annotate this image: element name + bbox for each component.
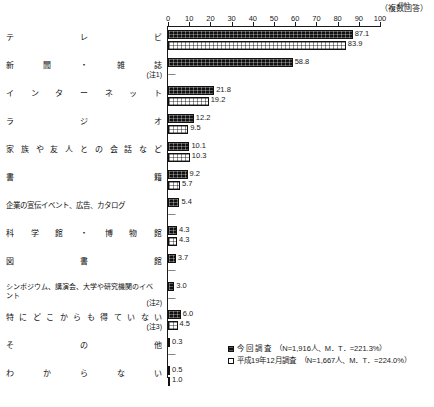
bar-group: 12.29.5 <box>168 114 194 135</box>
bar-current-survey: 4.3 <box>168 226 177 235</box>
bar-previous-survey: 1.0 <box>168 377 170 386</box>
bar-current-survey: 3.0 <box>168 282 174 291</box>
bar-current-survey: 0.3 <box>168 338 170 347</box>
bar-value-label: 0.3 <box>172 337 182 346</box>
bar-value-label: 9.2 <box>190 169 200 178</box>
bar-current-survey: 21.8 <box>168 86 214 95</box>
category-label: その他 <box>6 341 162 351</box>
bar-group: 0.51.0 <box>168 366 170 387</box>
x-axis-tickmark <box>295 22 296 27</box>
category-label: 家族や友人との会話など <box>6 145 162 155</box>
category-label-text: 科学館・博物館 <box>6 229 162 239</box>
legend-label: 今 回 調 査 <box>237 343 271 355</box>
category-label-text: わからない <box>6 369 162 379</box>
bar-current-survey: 58.8 <box>168 58 293 67</box>
bar-value-label: 6.0 <box>183 309 193 318</box>
bar-no-data-dash: — <box>168 293 176 302</box>
chart-row: 企業の宣伝イベント、広告、カタログ5.4— <box>0 196 434 224</box>
bar-value-label: 10.1 <box>191 141 206 150</box>
bar-no-data-dash: — <box>168 349 176 358</box>
x-axis-tickmark <box>359 22 360 27</box>
bar-no-data-dash: — <box>168 265 176 274</box>
bar-value-label: 3.0 <box>176 281 186 290</box>
category-label: テレビ <box>6 33 162 43</box>
category-label-text: 図書館 <box>6 257 162 267</box>
chart-row: 図書館3.7— <box>0 252 434 280</box>
bar-previous-survey: 5.7 <box>168 181 180 190</box>
bar-group: 6.04.5 <box>168 310 181 331</box>
bar-no-data-dash: — <box>168 69 176 78</box>
bar-value-label: 5.7 <box>182 179 192 188</box>
bar-value-label: 19.2 <box>211 95 226 104</box>
x-axis-tick-labels: 0102030405060708090100 <box>0 14 434 25</box>
bar-group: 4.34.3 <box>168 226 177 247</box>
bar-value-label: 3.7 <box>178 253 188 262</box>
x-axis-tickmark <box>189 22 190 27</box>
category-label: ラジオ <box>6 117 162 127</box>
category-label-text: テレビ <box>6 33 162 43</box>
bar-group: 0.3— <box>168 338 170 359</box>
category-label-text: 新聞・雑誌 <box>6 61 162 71</box>
x-axis-tickmark <box>210 22 211 27</box>
bar-group: 10.110.3 <box>168 142 190 163</box>
category-label-text: その他 <box>6 341 162 351</box>
bar-current-survey: 3.7 <box>168 254 176 263</box>
category-label-note: (注3) <box>6 322 162 332</box>
legend-meta: （N=1,916人、M．T．=221.3%） <box>275 343 386 355</box>
chart-row: ラジオ12.29.5 <box>0 112 434 140</box>
category-label: シンポジウム、講演会、大学や研究機関のイベント(注2) <box>6 282 162 300</box>
x-axis-tickmark <box>338 22 339 27</box>
chart-row: 家族や友人との会話など10.110.3 <box>0 140 434 168</box>
chart-row: テレビ87.183.9 <box>0 28 434 56</box>
legend-meta: （N=1,667人、M．T．=224.0%） <box>300 355 411 367</box>
category-label: インターネット <box>6 89 162 99</box>
x-axis-tickmark <box>274 22 275 27</box>
legend-item: 平成19年12月調査（N=1,667人、M．T．=224.0%） <box>228 355 411 367</box>
chart-row: 書籍9.25.7 <box>0 168 434 196</box>
bar-value-label: 21.8 <box>216 85 231 94</box>
bar-value-label: 5.4 <box>181 197 191 206</box>
bar-value-label: 4.3 <box>179 235 189 244</box>
bar-group: 9.25.7 <box>168 170 188 191</box>
category-label: 特にどこからも得ていない(注3) <box>6 313 162 332</box>
category-label: 企業の宣伝イベント、広告、カタログ <box>6 201 162 211</box>
bar-current-survey: 9.2 <box>168 170 188 179</box>
bar-previous-survey: 9.5 <box>168 125 188 134</box>
bar-previous-survey: 19.2 <box>168 97 209 106</box>
bar-current-survey: 5.4 <box>168 198 179 207</box>
bar-current-survey: 10.1 <box>168 142 189 151</box>
chart-row: シンポジウム、講演会、大学や研究機関のイベント(注2)3.0— <box>0 280 434 308</box>
chart-row: 新聞・雑誌(注1)58.8— <box>0 56 434 84</box>
bar-previous-survey: 10.3 <box>168 153 190 162</box>
bar-current-survey: 0.5 <box>168 366 170 375</box>
bar-group: 87.183.9 <box>168 30 353 51</box>
chart-row: インターネット21.819.2 <box>0 84 434 112</box>
bar-value-label: 1.0 <box>172 375 182 384</box>
x-axis-unit-label: (%) <box>398 0 410 9</box>
bar-value-label: 87.1 <box>355 29 370 38</box>
category-label-text: ラジオ <box>6 117 162 127</box>
category-label-text: インターネット <box>6 89 162 99</box>
bar-group: 3.0— <box>168 282 174 303</box>
chart-row: わからない0.51.0 <box>0 364 434 392</box>
bar-value-label: 10.3 <box>192 151 207 160</box>
category-label-text: 家族や友人との会話など <box>6 145 162 155</box>
chart-row: 科学館・博物館4.34.3 <box>0 224 434 252</box>
bar-group: 58.8— <box>168 58 293 79</box>
chart-rows: テレビ87.183.9新聞・雑誌(注1)58.8—インターネット21.819.2… <box>0 28 434 392</box>
bar-value-label: 9.5 <box>190 123 200 132</box>
category-label-text: シンポジウム、講演会、大学や研究機関のイベント <box>6 282 158 300</box>
category-label-note: (注2) <box>146 298 162 308</box>
category-label: 図書館 <box>6 257 162 267</box>
category-label: わからない <box>6 369 162 379</box>
category-label-text: 特にどこからも得ていない <box>6 313 162 323</box>
x-axis-tickmark <box>253 22 254 27</box>
category-label-text: 企業の宣伝イベント、広告、カタログ <box>6 201 162 211</box>
bar-previous-survey: 83.9 <box>168 41 346 50</box>
bar-value-label: 4.5 <box>180 319 190 328</box>
legend-swatch-previous <box>228 358 234 364</box>
bar-value-label: 4.3 <box>179 225 189 234</box>
chart-row: 特にどこからも得ていない(注3)6.04.5 <box>0 308 434 336</box>
bar-group: 21.819.2 <box>168 86 214 107</box>
chart-legend: 今 回 調 査（N=1,916人、M．T．=221.3%）平成19年12月調査（… <box>228 343 411 367</box>
